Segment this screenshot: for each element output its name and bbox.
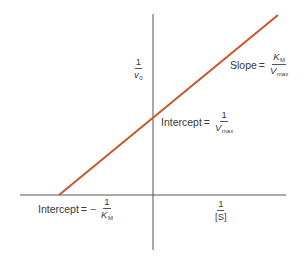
y-axis-label: 1 v0 xyxy=(131,57,143,81)
regression-line xyxy=(59,15,278,195)
y-intercept-label: Intercept = 1 Vmax xyxy=(161,110,233,134)
plot-canvas xyxy=(0,0,307,265)
x-intercept-label: Intercept = − 1 KM xyxy=(38,197,113,221)
x-axis-label: 1 [S] xyxy=(212,199,227,221)
slope-label: Slope = KM Vmax xyxy=(230,52,288,77)
